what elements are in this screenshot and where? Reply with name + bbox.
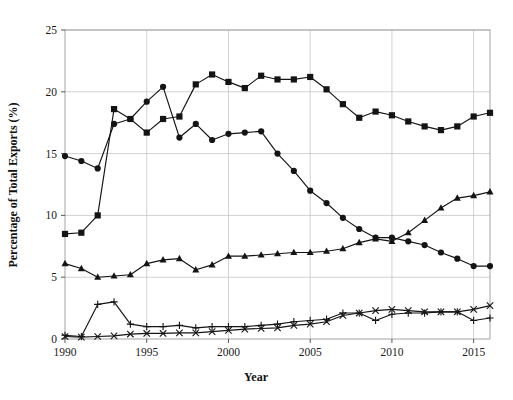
line-chart: 0510152025199019952000200520102015 Year …: [0, 0, 513, 400]
square-marker: [323, 86, 329, 92]
circle-marker: [438, 249, 444, 255]
square-marker: [340, 101, 346, 107]
y-tick-label: 0: [51, 333, 57, 345]
square-marker: [95, 212, 101, 218]
square-marker: [274, 76, 280, 82]
square-marker: [258, 73, 264, 79]
square-marker: [209, 71, 215, 77]
circle-marker: [144, 99, 150, 105]
circle-marker: [209, 137, 215, 143]
square-marker: [454, 123, 460, 129]
x-tick-label: 2010: [380, 346, 403, 358]
circle-marker: [487, 263, 493, 269]
circle-marker: [160, 84, 166, 90]
square-marker: [422, 123, 428, 129]
circle-marker: [307, 188, 313, 194]
plot-background: [0, 0, 513, 400]
circle-marker: [422, 242, 428, 248]
circle-marker: [62, 153, 68, 159]
circle-marker: [225, 131, 231, 137]
x-tick-label: 1990: [54, 346, 77, 358]
circle-marker: [356, 226, 362, 232]
square-marker: [193, 81, 199, 87]
circle-marker: [323, 200, 329, 206]
circle-marker: [454, 256, 460, 262]
square-marker: [242, 85, 248, 91]
square-marker: [471, 113, 477, 119]
square-marker: [307, 74, 313, 80]
y-tick-label: 10: [46, 209, 58, 221]
y-axis-title: Percentage of Total Exports (%): [6, 102, 20, 267]
x-tick-label: 1995: [135, 346, 158, 358]
x-axis-title: Year: [244, 370, 269, 384]
circle-marker: [258, 128, 264, 134]
square-marker: [225, 79, 231, 85]
circle-marker: [95, 165, 101, 171]
circle-marker: [242, 129, 248, 135]
circle-marker: [78, 158, 84, 164]
square-marker: [389, 112, 395, 118]
square-marker: [176, 113, 182, 119]
x-tick-label: 2005: [299, 346, 322, 358]
chart-container: 0510152025199019952000200520102015 Year …: [0, 0, 513, 400]
square-marker: [111, 106, 117, 112]
y-tick-label: 15: [46, 148, 58, 160]
x-tick-label: 2000: [217, 346, 240, 358]
circle-marker: [291, 168, 297, 174]
square-marker: [291, 76, 297, 82]
square-marker: [356, 115, 362, 121]
circle-marker: [193, 121, 199, 127]
square-marker: [62, 231, 68, 237]
square-marker: [372, 108, 378, 114]
circle-marker: [405, 238, 411, 244]
circle-marker: [274, 151, 280, 157]
circle-marker: [176, 134, 182, 140]
square-marker: [127, 116, 133, 122]
square-marker: [487, 110, 493, 116]
square-marker: [78, 230, 84, 236]
square-marker: [144, 129, 150, 135]
circle-marker: [471, 263, 477, 269]
x-tick-label: 2015: [462, 346, 485, 358]
y-tick-label: 25: [46, 24, 58, 36]
square-marker: [438, 127, 444, 133]
y-tick-label: 20: [46, 86, 58, 98]
square-marker: [405, 118, 411, 124]
y-tick-label: 5: [51, 271, 57, 283]
square-marker: [160, 116, 166, 122]
circle-marker: [340, 215, 346, 221]
